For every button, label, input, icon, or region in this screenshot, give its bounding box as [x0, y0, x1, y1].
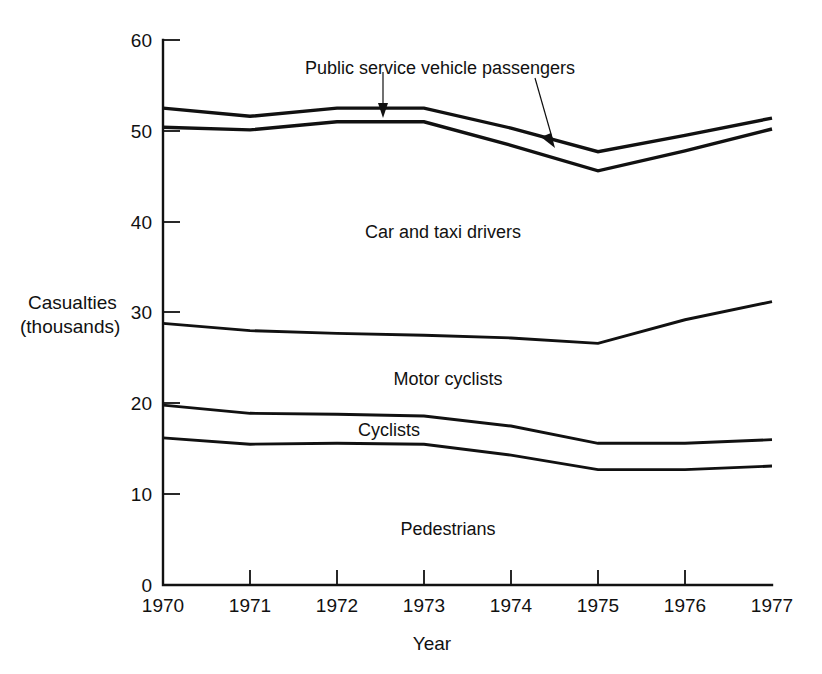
series-line-car-and-taxi-drivers [163, 122, 772, 171]
x-axis-ticks [250, 570, 685, 585]
y-axis-title-line2: (thousands) [20, 316, 120, 337]
y-tick-label-40: 40 [131, 212, 152, 233]
y-tick-label-0: 0 [141, 575, 152, 596]
series-label-pedestrians: Pedestrians [400, 519, 495, 539]
line-chart: 60 50 40 30 20 10 0 1970 1971 1972 1973 … [0, 0, 822, 674]
x-axis-title: Year [413, 633, 452, 654]
x-tick-label-1973: 1973 [403, 595, 445, 616]
series-lines [163, 108, 772, 470]
annotation-leaders [378, 72, 555, 148]
x-tick-label-1976: 1976 [664, 595, 706, 616]
arrow-head-psv-icon [378, 103, 388, 118]
chart-axes [163, 40, 772, 585]
series-label-car-and-taxi-drivers: Car and taxi drivers [365, 222, 521, 242]
series-label-public-service-vehicle-passengers: Public service vehicle passengers [305, 58, 575, 78]
series-label-motor-cyclists: Motor cyclists [393, 369, 502, 389]
x-tick-label-1971: 1971 [229, 595, 271, 616]
series-line-cyclists [163, 405, 772, 443]
x-tick-label-1977: 1977 [751, 595, 793, 616]
y-tick-label-30: 30 [131, 302, 152, 323]
x-tick-label-1972: 1972 [316, 595, 358, 616]
x-tick-label-1975: 1975 [577, 595, 619, 616]
x-tick-label-1970: 1970 [142, 595, 184, 616]
y-tick-label-20: 20 [131, 393, 152, 414]
y-axis-title-line1: Casualties [28, 292, 117, 313]
series-label-cyclists: Cyclists [358, 420, 420, 440]
y-tick-label-60: 60 [131, 30, 152, 51]
chart-page: 60 50 40 30 20 10 0 1970 1971 1972 1973 … [0, 0, 822, 674]
series-line-motor-cyclists [163, 302, 772, 344]
y-tick-label-50: 50 [131, 121, 152, 142]
y-tick-label-10: 10 [131, 484, 152, 505]
x-tick-label-1974: 1974 [490, 595, 533, 616]
